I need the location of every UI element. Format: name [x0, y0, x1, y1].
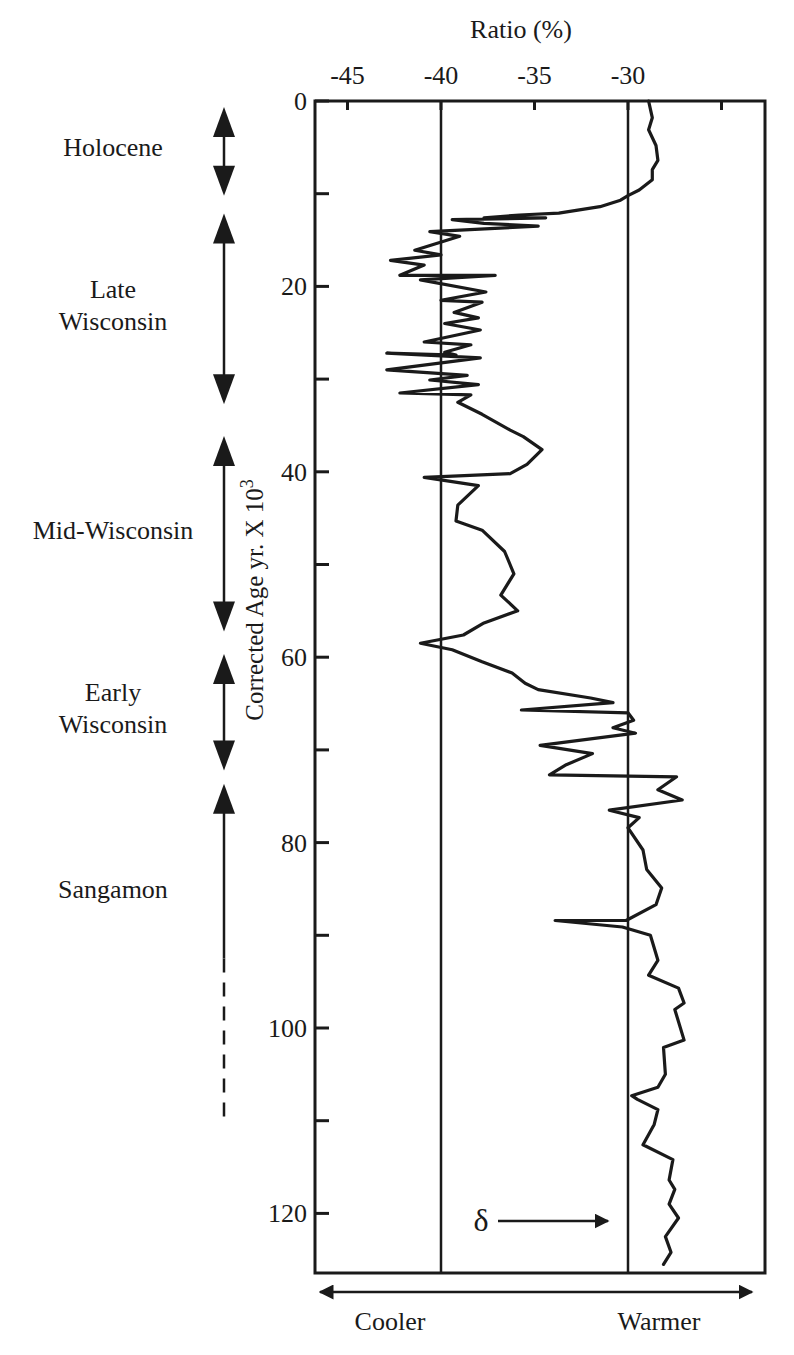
- delta-ratio-chart: Ratio (%) -45-40-35-30 020406080100120 C…: [0, 0, 794, 1355]
- y-tick-label: 40: [281, 458, 307, 487]
- arrow-down-icon: [213, 740, 235, 770]
- y-tick-label: 20: [281, 272, 307, 301]
- x-tick-labels: -45-40-35-30: [330, 61, 645, 90]
- y-axis-title-main: Corrected Age yr. X 10: [241, 488, 268, 721]
- delta-annotation: δ: [473, 1202, 608, 1238]
- y-tick-label: 80: [281, 829, 307, 858]
- cooler-label: Cooler: [355, 1307, 426, 1336]
- period-mid-wisconsin: Mid-Wisconsin: [33, 436, 235, 631]
- delta-symbol: δ: [473, 1202, 488, 1238]
- y-axis-title: Corrected Age yr. X 103: [237, 479, 268, 721]
- x-axis-title: Ratio (%): [470, 15, 572, 44]
- arrow-up-icon: [213, 654, 235, 684]
- axis-ticks: [315, 101, 722, 1213]
- arrow-down-icon: [213, 374, 235, 404]
- arrow-up-icon: [213, 784, 235, 814]
- period-sangamon: Sangamon: [58, 784, 235, 1123]
- y-axis-title-superscript: 3: [237, 479, 257, 488]
- arrow-down-icon: [213, 601, 235, 631]
- arrow-down-icon: [213, 166, 235, 196]
- arrow-up-icon: [213, 107, 235, 137]
- period-label: Late: [90, 275, 136, 304]
- y-tick-label: 100: [268, 1014, 307, 1043]
- y-tick-label: 0: [294, 87, 307, 116]
- y-tick-label: 120: [268, 1199, 307, 1228]
- period-label: Mid-Wisconsin: [33, 516, 194, 545]
- plot-frame: [315, 101, 765, 1273]
- period-label: Wisconsin: [59, 710, 168, 739]
- x-tick-label: -30: [611, 61, 646, 90]
- period-label: Early: [85, 678, 141, 707]
- y-tick-label: 60: [281, 643, 307, 672]
- arrow-up-icon: [213, 436, 235, 466]
- arrow-up-icon: [213, 214, 235, 244]
- period-annotations: HoloceneLateWisconsinMid-WisconsinEarlyW…: [33, 107, 235, 1123]
- period-holocene: Holocene: [63, 107, 235, 196]
- period-label: Wisconsin: [59, 307, 168, 336]
- x-tick-label: -35: [517, 61, 552, 90]
- y-tick-labels: 020406080100120: [268, 87, 307, 1228]
- warmer-label: Warmer: [617, 1307, 700, 1336]
- period-label: Holocene: [63, 133, 163, 162]
- period-early-wisconsin: EarlyWisconsin: [59, 654, 235, 771]
- series-line-delta-ratio: [387, 101, 684, 1264]
- x-tick-label: -45: [330, 61, 365, 90]
- x-tick-label: -40: [424, 61, 459, 90]
- period-label: Sangamon: [58, 875, 168, 904]
- period-late-wisconsin: LateWisconsin: [59, 214, 235, 405]
